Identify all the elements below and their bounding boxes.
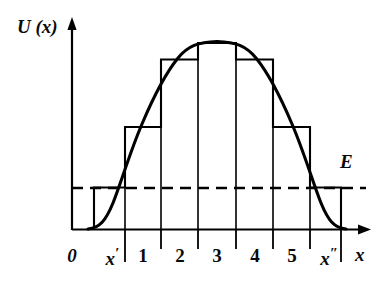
energy-level-label: E [340, 152, 353, 171]
x-tick-label-x-double-prime: x″ [315, 246, 343, 268]
x-tick-label-2: 2 [168, 246, 192, 265]
x-tick-label-3: 3 [205, 246, 229, 265]
x-prime-base: x [105, 248, 115, 269]
x-tick-label-1: 1 [131, 246, 155, 265]
x-tick-label-origin: 0 [60, 246, 84, 265]
x-axis-tick-stubs [125, 230, 341, 263]
x-double-prime-base: x [320, 248, 330, 269]
potential-curve [88, 42, 346, 230]
step-approximation [94, 43, 341, 230]
potential-barrier-figure: U (x) E x 0 x′ 1 2 3 4 5 x″ [0, 0, 386, 289]
x-double-prime-mark: ″ [330, 245, 338, 261]
x-tick-label-x-prime: x′ [100, 246, 124, 268]
x-prime-mark: ′ [115, 245, 119, 261]
y-axis-label: U (x) [17, 17, 58, 36]
x-tick-label-5: 5 [280, 246, 304, 265]
x-axis-label: x [355, 245, 365, 264]
y-axis [67, 17, 76, 230]
step-separators [125, 43, 310, 230]
x-axis [72, 225, 371, 235]
x-tick-label-4: 4 [243, 246, 267, 265]
